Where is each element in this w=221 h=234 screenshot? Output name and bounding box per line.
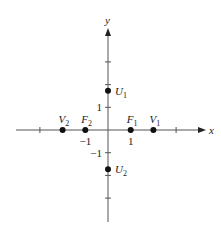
diagram-canvas: x y −111−1 V2F2F1V1U1U2 bbox=[0, 0, 221, 234]
point-label: U1 bbox=[115, 85, 127, 100]
point-label: V2 bbox=[59, 113, 70, 128]
x-axis-arrow-icon bbox=[198, 127, 206, 133]
point-label: F1 bbox=[126, 113, 138, 128]
x-axis-label: x bbox=[208, 124, 214, 136]
point-label-subscript: 1 bbox=[156, 119, 160, 128]
point-label: V1 bbox=[149, 113, 160, 128]
point-label-subscript: 2 bbox=[88, 119, 92, 128]
point-label: U2 bbox=[115, 163, 127, 178]
point-dot-icon bbox=[105, 166, 111, 172]
point-label: F2 bbox=[80, 113, 92, 128]
point-label-subscript: 2 bbox=[123, 169, 127, 178]
y-tick-label: −1 bbox=[90, 147, 102, 159]
point-dot-icon bbox=[105, 88, 111, 94]
coordinate-diagram: x y −111−1 V2F2F1V1U1U2 bbox=[0, 0, 221, 234]
points-layer: V2F2F1V1U1U2 bbox=[59, 85, 161, 179]
point-label-subscript: 1 bbox=[123, 91, 127, 100]
y-tick-label: 1 bbox=[97, 101, 103, 113]
point-label-subscript: 1 bbox=[133, 119, 137, 128]
y-axis-arrow-icon bbox=[105, 28, 111, 36]
x-tick-label: −1 bbox=[79, 135, 91, 147]
y-axis-label: y bbox=[104, 14, 110, 26]
x-tick-label: 1 bbox=[128, 135, 134, 147]
point-label-subscript: 2 bbox=[65, 119, 69, 128]
